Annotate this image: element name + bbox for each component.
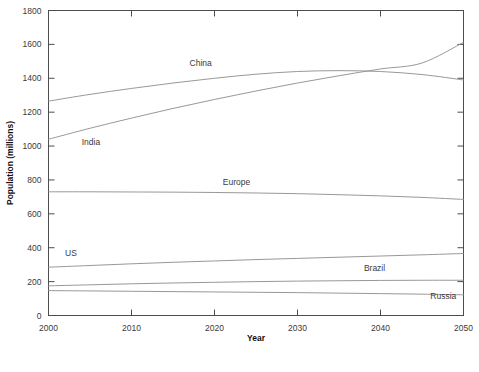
y-axis-tick-label: 400	[27, 243, 41, 253]
x-axis-tick-label: 2030	[288, 323, 307, 333]
y-axis-title: Population (millions)	[5, 121, 15, 205]
y-axis-tick-label: 1800	[23, 6, 42, 16]
series-label-india: India	[82, 137, 101, 147]
series-line-brazil	[49, 280, 464, 286]
y-axis-tick-label: 0	[37, 311, 42, 321]
series-line-russia	[49, 291, 464, 295]
y-axis-tick-label: 1000	[23, 141, 42, 151]
series-line-china	[49, 71, 464, 102]
x-axis-tick-label: 2040	[371, 323, 390, 333]
series-label-china: China	[190, 58, 212, 68]
y-axis-tick-label: 800	[27, 175, 41, 185]
x-axis-tick-label: 2050	[454, 323, 473, 333]
population-projection-chart: 0200400600800100012001400160018002000201…	[0, 0, 479, 372]
x-axis-title: Year	[247, 333, 266, 343]
series-label-europe: Europe	[223, 177, 251, 187]
series-label-us: US	[65, 248, 77, 258]
series-label-russia: Russia	[430, 291, 456, 301]
x-axis-tick-label: 2020	[205, 323, 224, 333]
plot-frame	[49, 11, 464, 316]
x-axis-tick-label: 2000	[39, 323, 58, 333]
y-axis-tick-label: 1600	[23, 39, 42, 49]
y-axis-tick-label: 600	[27, 209, 41, 219]
chart-plot-area: 0200400600800100012001400160018002000201…	[0, 0, 479, 372]
series-label-brazil: Brazil	[364, 263, 385, 273]
series-line-us	[49, 253, 464, 267]
series-line-europe	[49, 192, 464, 200]
y-axis-tick-label: 1200	[23, 107, 42, 117]
y-axis-tick-label: 1400	[23, 73, 42, 83]
series-line-india	[49, 42, 464, 139]
x-axis-tick-label: 2010	[122, 323, 141, 333]
y-axis-tick-label: 200	[27, 277, 41, 287]
